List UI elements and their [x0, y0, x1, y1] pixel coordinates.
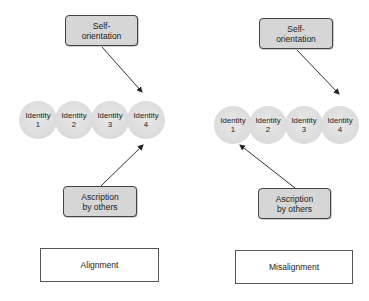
identity-number: 2	[266, 125, 270, 135]
ascription-line1: Ascription	[276, 194, 313, 204]
ascription-line1: Ascription	[81, 192, 118, 202]
left-identity-2: Identity 2	[55, 101, 93, 139]
ascription-line2: by others	[83, 202, 118, 212]
identity-number: 4	[144, 120, 148, 130]
misalignment-caption: Misalignment	[235, 250, 353, 284]
self-orientation-line1: Self-	[93, 21, 110, 31]
identity-label: Identity	[133, 111, 158, 121]
caption-text: Misalignment	[269, 262, 319, 272]
identity-label: Identity	[291, 116, 316, 126]
identity-label: Identity	[61, 111, 86, 121]
self-orientation-line2: orientation	[276, 34, 316, 44]
left-self-orientation-arrow	[102, 47, 142, 92]
right-identity-4: Identity 4	[321, 106, 359, 144]
left-self-orientation-box: Self- orientation	[65, 15, 138, 46]
right-self-orientation-arrow	[297, 50, 339, 94]
self-orientation-line1: Self-	[287, 24, 304, 34]
identity-label: Identity	[25, 111, 50, 121]
identity-number: 4	[338, 125, 342, 135]
left-identity-4: Identity 4	[127, 101, 165, 139]
left-identity-1: Identity 1	[19, 101, 57, 139]
right-identity-2: Identity 2	[249, 106, 287, 144]
identity-label: Identity	[327, 116, 352, 126]
alignment-caption: Alignment	[40, 248, 159, 282]
left-identity-3: Identity 3	[91, 101, 129, 139]
identity-number: 1	[231, 125, 235, 135]
identity-label: Identity	[97, 111, 122, 121]
identity-number: 3	[302, 125, 306, 135]
self-orientation-line2: orientation	[82, 31, 122, 41]
right-identity-1: Identity 1	[214, 106, 252, 144]
identity-number: 2	[72, 120, 76, 130]
identity-label: Identity	[255, 116, 280, 126]
left-ascription-arrow	[101, 145, 143, 186]
identity-number: 1	[36, 120, 40, 130]
right-self-orientation-box: Self- orientation	[259, 18, 333, 49]
identity-number: 3	[108, 120, 112, 130]
right-ascription-arrow	[240, 145, 295, 188]
right-ascription-box: Ascription by others	[258, 188, 331, 219]
right-identity-3: Identity 3	[285, 106, 323, 144]
ascription-line2: by others	[277, 204, 312, 214]
identity-label: Identity	[220, 116, 245, 126]
left-ascription-box: Ascription by others	[63, 186, 137, 217]
caption-text: Alignment	[81, 260, 119, 270]
